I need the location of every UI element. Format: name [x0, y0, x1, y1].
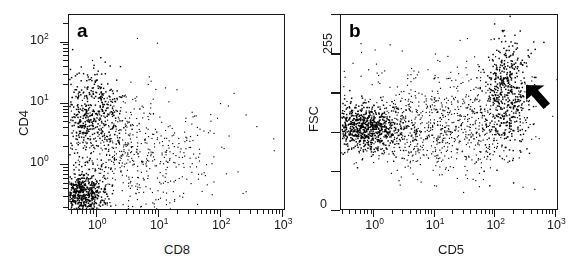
panel-a: a CD4 CD8 100101102103100101102: [0, 0, 290, 271]
panel-a-y-tick: [63, 170, 68, 171]
panel-b-x-tick: [355, 210, 356, 214]
panel-b-x-tick: [342, 210, 343, 214]
panel-a-y-tick: [63, 84, 68, 85]
panel-b-letter: b: [349, 21, 361, 40]
panel-b-x-tick: [349, 210, 350, 214]
panel-a-y-tick: [63, 183, 68, 184]
panel-b-x-tick: [492, 210, 493, 214]
panel-b-x-tick: [513, 210, 514, 214]
panel-b-x-tick: [367, 210, 368, 214]
panel-b-y-tick: [331, 210, 340, 211]
panel-a-y-tick: [63, 48, 68, 49]
panel-a-x-axis-title: CD8: [164, 242, 190, 257]
panel-a-plot-area: [68, 14, 285, 210]
panel-a-x-tick: [144, 210, 145, 214]
panel-a-x-tick: [77, 210, 78, 214]
panel-a-y-tick: [63, 135, 68, 136]
panel-b-y-axis-title: FSC: [306, 106, 321, 132]
panel-b-x-tick: [481, 210, 482, 214]
panel-a-x-tick-label: 101: [150, 219, 169, 232]
panel-b-x-tick: [364, 210, 365, 214]
panel-b-x-tick: [485, 210, 486, 214]
panel-b-x-tick: [523, 210, 524, 214]
panel-a-y-tick: [63, 121, 68, 122]
panel-a-x-tick: [158, 210, 159, 217]
panel-b-x-tick-label: 102: [486, 219, 505, 232]
panel-a-y-tick: [63, 74, 68, 75]
panel-b-y-tick-label-min: 0: [320, 198, 327, 211]
panel-a-x-tick: [268, 210, 269, 214]
panel-a-y-tick: [63, 116, 68, 117]
panel-a-y-tick: [63, 112, 68, 113]
panel-a-y-tick-label: 100: [30, 156, 49, 169]
panel-a-y-tick: [63, 174, 68, 175]
panel-b-x-tick: [555, 210, 556, 217]
panel-b-y-tick: [331, 14, 340, 15]
panel-a-x-tick: [282, 210, 283, 217]
panel-a-x-tick: [90, 210, 91, 214]
panel-a-x-tick: [126, 210, 127, 214]
panel-a-x-tick: [86, 210, 87, 214]
panel-b: b FSC CD5 255 0 100101102103: [290, 0, 568, 271]
panel-a-x-tick: [257, 210, 258, 214]
panel-b-x-tick: [452, 210, 453, 214]
panel-b-x-tick: [552, 210, 553, 214]
panel-b-x-tick: [434, 210, 435, 217]
panel-a-x-tick: [250, 210, 251, 214]
panel-a-x-tick: [217, 210, 218, 214]
panel-a-y-axis-title: CD4: [16, 110, 31, 136]
panel-a-y-tick: [63, 60, 68, 61]
panel-a-x-tick: [96, 210, 97, 217]
panel-a-y-tick: [63, 23, 68, 24]
panel-b-x-tick: [470, 210, 471, 214]
panel-b-y-tick-label-max: 255: [322, 33, 335, 54]
panel-b-x-tick: [531, 210, 532, 214]
panel-a-x-tick: [220, 210, 221, 217]
panel-a-y-tick: [63, 51, 68, 52]
panel-a-x-tick: [195, 210, 196, 214]
panel-b-x-tick-label: 100: [365, 219, 384, 232]
panel-a-x-tick: [93, 210, 94, 214]
panel-b-x-tick: [420, 210, 421, 214]
panel-b-x-tick: [537, 210, 538, 214]
panel-a-x-tick: [82, 210, 83, 214]
panel-a-x-tick: [139, 210, 140, 214]
panel-b-x-tick: [371, 210, 372, 214]
panel-a-x-tick: [206, 210, 207, 214]
panel-b-x-axis-title: CD5: [438, 242, 464, 257]
panel-a-x-tick: [133, 210, 134, 214]
panel-a-x-tick: [71, 210, 72, 214]
panel-a-x-tick: [279, 210, 280, 214]
panel-a-y-tick-label: 101: [30, 95, 49, 108]
panel-a-x-tick: [115, 210, 116, 214]
panel-a-x-tick: [201, 210, 202, 214]
panel-b-x-tick: [373, 210, 374, 217]
panel-b-x-tick: [542, 210, 543, 214]
population-arrow-icon: [524, 83, 558, 113]
panel-a-x-tick: [239, 210, 240, 214]
panel-a-x-tick-label: 102: [212, 219, 231, 232]
panel-a-x-tick: [276, 210, 277, 214]
panel-a-y-tick: [63, 66, 68, 67]
panel-a-y-tick: [63, 196, 68, 197]
panel-b-y-tick: [331, 132, 340, 133]
panel-a-scatter-plot: [69, 15, 284, 209]
panel-a-x-tick-label: 100: [88, 219, 107, 232]
panel-b-x-tick: [546, 210, 547, 214]
panel-b-x-tick: [402, 210, 403, 214]
panel-b-x-tick: [463, 210, 464, 214]
panel-b-y-tick: [331, 53, 340, 54]
panel-a-y-tick-label: 102: [30, 34, 49, 47]
panel-a-x-tick: [214, 210, 215, 214]
panel-a-y-tick: [63, 178, 68, 179]
panel-a-x-tick: [152, 210, 153, 214]
panel-a-y-tick: [63, 207, 68, 208]
panel-a-y-tick: [63, 127, 68, 128]
panel-b-y-tick: [331, 171, 340, 172]
panel-a-letter: a: [77, 21, 88, 40]
figure-container: a CD4 CD8 100101102103100101102 b FSC CD…: [0, 0, 568, 271]
panel-b-x-tick: [392, 210, 393, 214]
panel-a-x-tick: [155, 210, 156, 214]
panel-b-x-tick: [476, 210, 477, 214]
panel-a-y-tick: [60, 164, 68, 165]
